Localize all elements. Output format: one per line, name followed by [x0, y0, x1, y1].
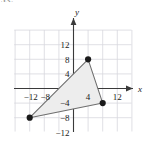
- coordinate-plane: x y −12−8412 1284−4−8−12: [0, 0, 153, 154]
- y-axis-arrowhead: [71, 18, 77, 25]
- x-axis-label: x: [137, 84, 142, 94]
- vertex-point: [85, 56, 91, 62]
- x-tick-label: 12: [113, 92, 122, 102]
- x-tick-label: −12: [24, 92, 38, 102]
- vertex-point: [100, 100, 106, 106]
- coordinate-graph-figure: 53. x y −12−8412 1284−4−8−12: [0, 0, 153, 154]
- y-tick-label: −8: [60, 113, 70, 123]
- y-tick-label: −12: [55, 128, 69, 138]
- y-axis-label: y: [74, 7, 79, 17]
- y-tick-label: 12: [61, 40, 70, 50]
- vertex-point: [27, 115, 33, 121]
- x-tick-label: 4: [86, 92, 91, 102]
- x-tick-label: −8: [41, 92, 51, 102]
- y-tick-label: 8: [65, 55, 70, 65]
- y-tick-label: −4: [60, 98, 70, 108]
- y-tick-label: 4: [65, 69, 70, 79]
